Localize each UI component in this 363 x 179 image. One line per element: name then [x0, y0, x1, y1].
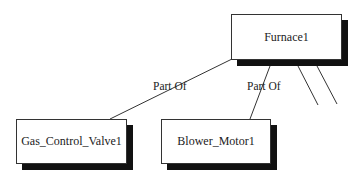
edge-extra-1: [298, 66, 318, 105]
edge-blower-furnace: [250, 66, 270, 119]
node-blower-motor[interactable]: Blower_Motor1: [161, 119, 271, 164]
node-label: Furnace1: [264, 30, 309, 45]
node-label: Gas_Control_Valve1: [21, 134, 122, 149]
edge-label-blower-furnace: Part Of: [247, 80, 281, 92]
node-label: Blower_Motor1: [177, 134, 254, 149]
node-furnace[interactable]: Furnace1: [231, 14, 342, 60]
node-gas-control-valve[interactable]: Gas_Control_Valve1: [16, 119, 127, 164]
edge-extra-2: [317, 66, 337, 104]
edge-label-gas-furnace: Part Of: [153, 80, 187, 92]
